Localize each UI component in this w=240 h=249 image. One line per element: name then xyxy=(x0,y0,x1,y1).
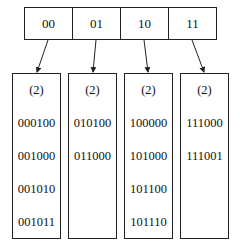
bucket-key: 011000 xyxy=(69,149,116,165)
local-depth: (2) xyxy=(125,83,172,99)
bucket-key: 100000 xyxy=(125,116,172,132)
bucket-key: 111001 xyxy=(181,149,228,165)
bucket-key: 010100 xyxy=(69,116,116,132)
bucket-key: 101000 xyxy=(125,149,172,165)
bucket-key: 101100 xyxy=(125,182,172,198)
bucket-key: 111000 xyxy=(181,116,228,132)
bucket-3: (2) 111000 111001 xyxy=(180,73,229,239)
arrow-00 xyxy=(37,40,48,72)
bucket-key: 000100 xyxy=(13,116,60,132)
arrow-10 xyxy=(144,40,148,72)
local-depth: (2) xyxy=(13,83,60,99)
bucket-key: 001011 xyxy=(13,215,60,231)
bucket-1: (2) 010100 011000 xyxy=(68,73,117,239)
bucket-2: (2) 100000 101000 101100 101110 xyxy=(124,73,173,239)
bucket-key: 001010 xyxy=(13,182,60,198)
local-depth: (2) xyxy=(69,83,116,99)
arrow-01 xyxy=(93,40,96,72)
arrow-11 xyxy=(192,40,204,72)
bucket-0: (2) 000100 001000 001010 001011 xyxy=(12,73,61,239)
local-depth: (2) xyxy=(181,83,228,99)
bucket-key: 101110 xyxy=(125,215,172,231)
bucket-key: 001000 xyxy=(13,149,60,165)
